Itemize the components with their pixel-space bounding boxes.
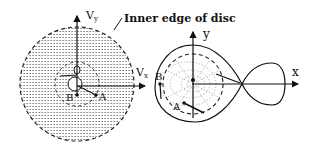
point-b-marker (75, 93, 79, 97)
trajectory-segment-a (184, 103, 204, 113)
y-axis-label: y (202, 27, 210, 41)
annotation-label: Inner edge of disc (124, 12, 236, 25)
small-circle (68, 77, 82, 91)
velocity-space-panel: Vy Vx A B (20, 9, 148, 141)
point-a-label: A (98, 91, 107, 102)
annotation-leader-line (114, 18, 122, 30)
vx-label: Vx (135, 66, 148, 80)
position-space-panel: y x A B (155, 27, 299, 122)
point-b-label: B (66, 92, 73, 103)
center-mass (191, 78, 195, 82)
field-lines (160, 57, 220, 108)
trajectory-segment-b (160, 84, 161, 99)
figure: Vy Vx A B Inner edge of disc (0, 0, 314, 151)
x-axis-label: x (292, 65, 299, 79)
point-a-label: A (172, 101, 181, 112)
point-a-marker (94, 93, 98, 97)
vy-label: Vy (85, 9, 98, 23)
point-b-label: B (155, 71, 162, 82)
point-a-marker (182, 101, 186, 105)
point-b-marker (158, 82, 162, 86)
